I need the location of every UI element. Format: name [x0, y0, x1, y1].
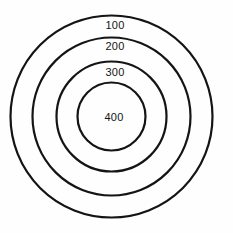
ring-label-300: 300 [106, 67, 125, 78]
ring-label-200: 200 [106, 41, 125, 52]
diagram-canvas: 100 200 300 400 [0, 0, 233, 233]
ring-label-400: 400 [105, 112, 124, 123]
ring-label-100: 100 [106, 20, 125, 31]
